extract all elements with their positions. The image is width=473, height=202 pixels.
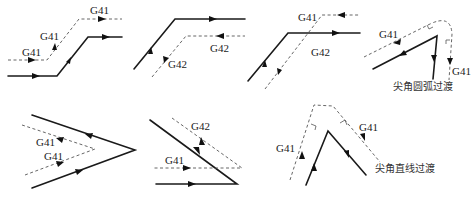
panel-3: G41 G42	[248, 11, 360, 89]
label-g42: G42	[168, 58, 187, 70]
tool-path-3	[248, 33, 360, 81]
arrow-icon	[299, 151, 305, 159]
label-g41: G41	[165, 154, 184, 166]
arrow-icon	[216, 33, 224, 39]
label-g41: G41	[379, 28, 398, 40]
label-g41: G41	[22, 46, 41, 58]
arrow-icon	[209, 16, 217, 22]
arrow-icon	[332, 30, 340, 36]
arrow-icon	[52, 43, 57, 50]
arrow-icon	[56, 137, 64, 143]
arrow-icon	[277, 68, 282, 75]
arrow-icon	[399, 50, 407, 56]
label-g42: G42	[191, 120, 210, 132]
label-g42: G42	[311, 46, 330, 58]
right-angle-mark	[427, 25, 433, 29]
panel-2: G42 G42	[134, 16, 245, 77]
arrow-icon	[311, 163, 317, 171]
compensation-diagram: G41 G41 G41 G42 G42 G41 G42 G41 G41	[0, 0, 473, 202]
panel-6: G42 G41	[150, 118, 242, 187]
label-g41: G41	[298, 11, 317, 23]
panel-7: G41 G41 尖角直线过渡	[276, 105, 435, 185]
label-g41: G41	[276, 142, 295, 154]
arrow-icon	[98, 16, 106, 22]
tool-path-7	[306, 131, 366, 185]
label-g41: G41	[40, 30, 59, 42]
right-angle-mark	[446, 40, 450, 44]
right-angle-mark	[311, 124, 316, 130]
offset-path-7	[290, 105, 380, 180]
panel-5: G41 G41	[22, 115, 135, 188]
offset-path-2	[152, 36, 245, 77]
label-g41: G41	[90, 4, 109, 16]
caption-arc-transition: 尖角圆弧过渡	[393, 80, 453, 92]
label-g41: G41	[452, 65, 471, 77]
arrow-icon	[85, 133, 93, 139]
arrow-icon	[360, 133, 365, 141]
arrow-icon	[102, 34, 110, 40]
label-g41: G41	[36, 136, 55, 148]
arrow-icon	[431, 55, 437, 62]
arrow-icon	[75, 169, 83, 175]
label-g42: G42	[210, 42, 229, 54]
arrow-icon	[188, 181, 196, 187]
panel-4: G41 G41 尖角圆弧过渡	[364, 21, 471, 92]
tool-path-4	[373, 36, 437, 79]
arrow-icon	[337, 12, 345, 18]
label-g41: G41	[44, 150, 63, 162]
arrow-icon	[32, 73, 40, 79]
panel-1: G41 G41 G41	[8, 4, 122, 79]
caption-line-transition: 尖角直线过渡	[375, 162, 435, 174]
label-g41: G41	[359, 121, 378, 133]
arrow-icon	[183, 165, 191, 171]
arrow-icon	[447, 58, 453, 65]
arrow-icon	[344, 150, 349, 158]
